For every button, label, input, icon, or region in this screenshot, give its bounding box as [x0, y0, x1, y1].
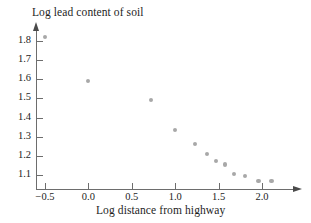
data-point [205, 152, 209, 156]
data-point [223, 162, 227, 166]
data-point [269, 179, 273, 183]
x-axis-title: Log distance from highway [96, 204, 225, 216]
data-point [86, 79, 90, 83]
data-point [232, 172, 236, 176]
data-point [214, 159, 218, 163]
data-point [193, 142, 197, 146]
scatter-plot-figure: Log lead content of soil 1.11.21.31.41.5… [0, 0, 311, 223]
data-point [149, 98, 153, 102]
data-points-layer [0, 0, 311, 223]
data-point [256, 179, 260, 183]
data-point [173, 128, 177, 132]
data-point [243, 174, 247, 178]
data-point [43, 35, 47, 39]
